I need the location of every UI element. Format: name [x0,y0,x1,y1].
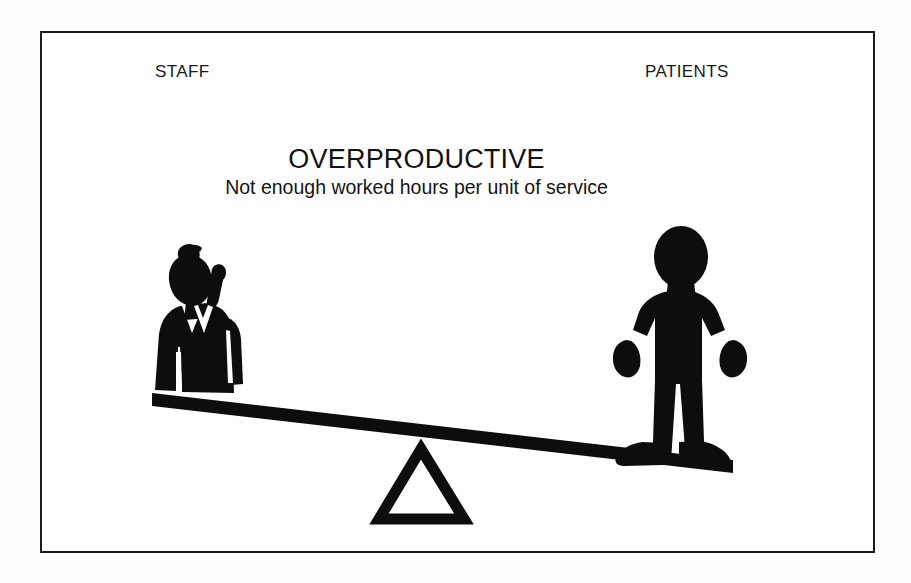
seesaw-illustration [0,0,911,583]
seesaw-beam-icon [152,393,733,473]
triangle-fulcrum-icon [379,449,464,519]
staff-person-icon [155,244,243,393]
patient-person-icon [613,226,747,467]
figure-canvas: STAFF PATIENTS OVERPRODUCTIVE Not enough… [0,0,911,583]
